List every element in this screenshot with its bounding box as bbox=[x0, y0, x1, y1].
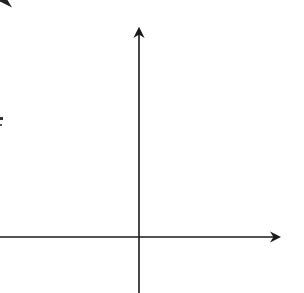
cropped-text-fragment bbox=[0, 117, 3, 120]
coordinate-plane-figure bbox=[0, 0, 304, 293]
cropped-text-fragment bbox=[0, 124, 2, 126]
x-tick-label-background bbox=[231, 241, 245, 263]
y-tick-label-background bbox=[117, 131, 135, 151]
